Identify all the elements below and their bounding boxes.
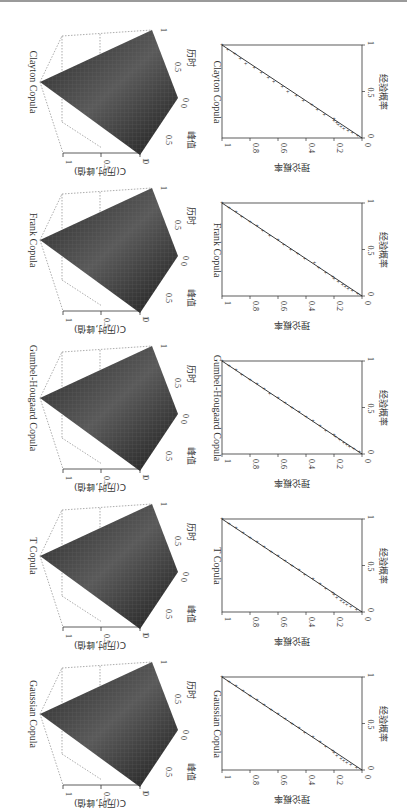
surface-panel [40, 504, 178, 631]
pp-y-tick: 0.2 [335, 301, 344, 311]
data-point: + [227, 363, 231, 369]
surface-panel [40, 662, 178, 789]
y-axis-label: 峰值 [186, 763, 197, 781]
pp-y-tick: 0.2 [335, 459, 344, 469]
data-point: + [337, 279, 341, 285]
pp-y-tick: 1 [223, 301, 232, 305]
data-point: + [351, 288, 355, 294]
data-point: + [304, 414, 308, 420]
z-tick: 1 [64, 318, 73, 322]
data-point: + [281, 84, 285, 90]
pp-x-axis-label: 经验概率 [378, 390, 389, 426]
pp-y-tick: 1 [223, 459, 232, 463]
y-tick: 1 [141, 316, 150, 320]
pp-x-axis-label: 经验概率 [378, 232, 389, 268]
panel-title: Gaussian Copula [212, 690, 223, 759]
pp-plot-panel: +++++++++++++++++++++++++ [220, 42, 365, 141]
data-point: + [239, 56, 243, 62]
pp-y-axis-label: 理论概率 [274, 794, 310, 805]
panel-title: Gumbel-Hougaard Copula [28, 345, 39, 452]
pp-y-tick: 0.4 [307, 301, 316, 311]
pp-y-tick: 1 [223, 617, 232, 621]
pp-x-tick: 0.5 [366, 404, 375, 414]
pp-y-tick: 0.4 [307, 143, 316, 153]
pp-y-tick: 0.8 [251, 617, 260, 627]
data-point: + [241, 688, 245, 694]
pp-y-axis-label: 理论概率 [274, 320, 310, 331]
data-point: + [295, 93, 299, 99]
pp-plot-panel: ++++++++++++++++++++++++ [220, 674, 365, 773]
data-point: + [297, 567, 301, 573]
pp-y-tick: 0.6 [279, 301, 288, 311]
z-tick: 1 [64, 476, 73, 480]
y-tick: 0.5 [164, 767, 173, 777]
pp-y-tick: 0.8 [251, 301, 260, 311]
pp-y-tick: 0.8 [251, 143, 260, 153]
pp-x-axis-label: 经验概率 [378, 706, 389, 742]
pp-x-tick: 1 [366, 199, 375, 203]
pp-x-tick: 0.5 [366, 720, 375, 730]
data-point: + [276, 395, 280, 401]
y-tick: 0.5 [164, 609, 173, 619]
pp-y-tick: 0.4 [307, 775, 316, 785]
y-axis-label: 峰值 [186, 289, 197, 307]
y-tick: 1 [141, 158, 150, 162]
data-point: + [262, 544, 266, 550]
pp-y-axis-label: 理论概率 [274, 162, 310, 173]
x-axis-label: 历时 [186, 207, 197, 225]
data-point: + [276, 237, 280, 243]
data-point: + [248, 535, 252, 541]
pp-y-axis-label: 理论概率 [274, 636, 310, 647]
data-point: + [227, 679, 231, 685]
pp-x-tick: 1 [366, 673, 375, 677]
data-point: + [355, 765, 359, 771]
data-point: + [283, 400, 287, 406]
y-axis-label: 峰值 [186, 605, 197, 623]
pp-plot-panel: ++++++++++++++++++++++++ [220, 200, 365, 299]
x-tick: 0 [181, 572, 190, 576]
pp-y-tick: 0.2 [335, 775, 344, 785]
x-tick: 1 [159, 28, 168, 32]
data-point: + [297, 409, 301, 415]
data-point: + [302, 98, 306, 104]
pp-x-tick: 0 [366, 450, 375, 454]
pp-x-tick: 0 [366, 292, 375, 296]
z-tick: 1 [64, 160, 73, 164]
data-point: + [316, 107, 320, 113]
z-axis-label: C(历时,峰值) [74, 798, 126, 808]
pp-y-tick: 0 [363, 775, 372, 779]
data-point: + [227, 521, 231, 527]
data-point: + [290, 721, 294, 727]
x-axis-label: 历时 [186, 365, 197, 383]
data-point: + [276, 711, 280, 717]
pp-y-tick: 0 [363, 143, 372, 147]
pp-y-tick: 0.8 [251, 775, 260, 785]
pp-y-tick: 1 [223, 775, 232, 779]
pp-y-tick: 0.4 [307, 459, 316, 469]
data-point: + [255, 539, 259, 545]
data-point: + [248, 377, 252, 383]
x-tick: 0 [181, 414, 190, 418]
y-tick: 0 [179, 736, 188, 740]
pp-y-tick: 0.6 [279, 775, 288, 785]
z-axis-label: C(历时,峰值) [74, 166, 126, 177]
panel-title: T Copula [212, 547, 223, 585]
pp-y-axis-label: 理论概率 [274, 478, 310, 489]
data-point: + [311, 576, 315, 582]
data-point: + [358, 449, 362, 455]
pp-x-tick: 0 [366, 608, 375, 612]
x-tick: 0.5 [173, 62, 182, 72]
surface-panel [40, 30, 178, 157]
pp-x-tick: 0 [366, 766, 375, 770]
x-tick: 1 [159, 502, 168, 506]
y-axis-label: 峰值 [186, 131, 197, 149]
z-tick: 1 [64, 634, 73, 638]
x-tick: 1 [159, 660, 168, 664]
x-tick: 0.5 [173, 694, 182, 704]
y-tick: 1 [141, 632, 150, 636]
panel-title: Gaussian Copula [28, 680, 39, 749]
pp-y-tick: 0.4 [307, 617, 316, 627]
y-tick: 0 [179, 578, 188, 582]
data-point: + [227, 205, 231, 211]
data-point: + [290, 405, 294, 411]
